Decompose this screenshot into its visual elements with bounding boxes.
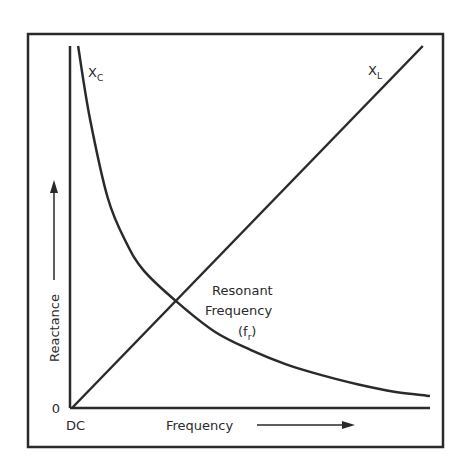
x-axis-label: Frequency <box>166 418 233 433</box>
xl-label: XL <box>368 63 382 81</box>
xc-label: XC <box>88 65 103 83</box>
y-axis-label: Reactance <box>47 294 62 362</box>
resonant-label-line1: Resonant <box>212 283 273 298</box>
xl-series-line <box>72 46 423 408</box>
resonant-symbol: (fr) <box>238 324 256 342</box>
x-axis-arrow-head <box>342 421 355 429</box>
y-origin-label: 0 <box>52 401 60 416</box>
reactance-diagram: XC XL Resonant Frequency (fr) 0 DC Frequ… <box>0 0 467 471</box>
y-axis-arrow-head <box>50 180 58 193</box>
x-origin-label: DC <box>66 418 85 433</box>
resonant-label-line2: Frequency <box>205 303 272 318</box>
